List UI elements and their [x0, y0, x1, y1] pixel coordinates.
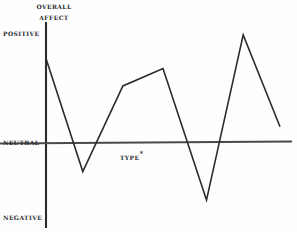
title-line-2: Affect [28, 13, 80, 22]
title-line-1: Overall [28, 2, 80, 11]
page-title: Overall Affect [28, 2, 80, 21]
y-axis-label-neutral: Neutral [3, 138, 39, 146]
y-axis-label-positive: Positive [3, 29, 40, 37]
overall-affect-figure: Overall Affect Positive Neutral Negative… [0, 0, 297, 232]
x-axis-footnote-marker: * [139, 149, 143, 158]
x-axis-label-text: Type [120, 152, 139, 162]
line-chart-plot [0, 0, 297, 232]
x-axis-neutral-line [0, 142, 292, 144]
x-axis-label: Type* [120, 150, 143, 161]
y-axis-label-negative: Negative [3, 213, 42, 221]
affect-data-line [46, 35, 280, 200]
